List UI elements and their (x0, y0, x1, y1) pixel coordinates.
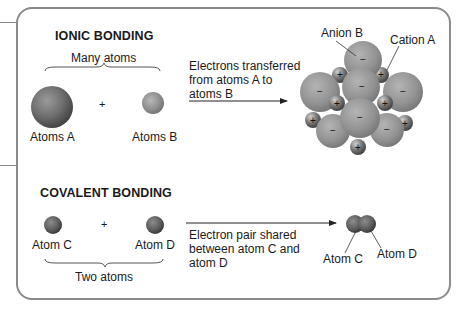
svg-text:−: − (384, 124, 390, 135)
svg-text:+: + (402, 118, 408, 129)
ionic-process-line-2: from atoms A to (189, 73, 272, 88)
atoms-a-label: Atoms A (30, 130, 75, 145)
covalent-process-line-2: between atom C and (189, 242, 300, 257)
atom-c-label: Atom C (32, 238, 72, 253)
atom-c-sphere (44, 216, 62, 234)
diagram-artwork: − − − − − − − + + + + + + + (0, 0, 474, 327)
svg-text:−: − (317, 86, 323, 97)
svg-text:−: − (400, 86, 406, 97)
two-atoms-label: Two atoms (75, 270, 133, 285)
product-atom-d-sphere (358, 215, 376, 233)
atom-d-label: Atom D (135, 238, 175, 253)
atom-b-sphere (142, 92, 164, 114)
ionic-process-line-3: atoms B (189, 87, 233, 102)
brace-two-atoms (45, 259, 163, 267)
svg-text:+: + (337, 69, 343, 80)
covalent-process-line-1: Electron pair shared (189, 228, 296, 243)
anion-b-label: Anion B (321, 26, 363, 41)
atoms-b-label: Atoms B (132, 130, 177, 145)
svg-text:−: − (330, 125, 336, 136)
ionic-plus-sign: + (99, 97, 105, 112)
ionic-crystal: − − − − − − − + + + + + + + (300, 41, 423, 155)
svg-text:−: − (357, 112, 363, 123)
svg-text:+: + (334, 98, 340, 109)
svg-text:+: + (355, 142, 361, 153)
cation-a-label: Cation A (390, 33, 435, 48)
cation-leader-line (387, 46, 399, 70)
many-atoms-label: Many atoms (71, 51, 136, 66)
atom-d-leader-line (371, 231, 381, 248)
covalent-process-line-3: atom D (189, 256, 228, 271)
product-atom-c-label: Atom C (323, 252, 363, 267)
ionic-process-line-1: Electrons transferred (189, 59, 300, 74)
atom-d-sphere (146, 216, 164, 234)
atom-c-leader-line (345, 231, 356, 253)
svg-text:+: + (310, 115, 316, 126)
atom-a-sphere (31, 86, 73, 128)
svg-text:+: + (382, 98, 388, 109)
covalent-plus-sign: + (101, 217, 107, 232)
ionic-bonding-title: IONIC BONDING (55, 29, 154, 44)
covalent-bonding-title: COVALENT BONDING (40, 186, 172, 201)
svg-text:−: − (360, 54, 366, 65)
product-atom-d-label: Atom D (377, 247, 417, 262)
svg-text:+: + (378, 69, 384, 80)
svg-text:−: − (359, 81, 365, 92)
